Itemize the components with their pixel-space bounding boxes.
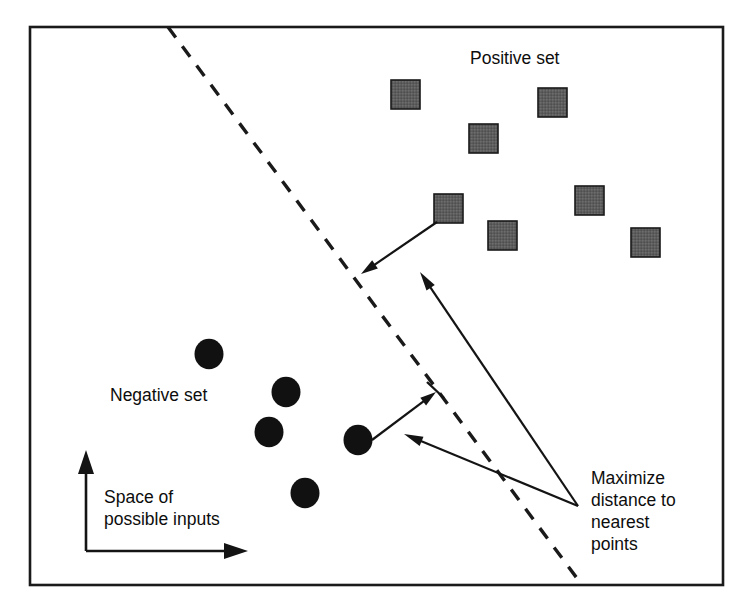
- negative-set-circle: [344, 425, 373, 456]
- maximize-label-line3: nearest: [591, 512, 650, 532]
- negative-set-circle: [291, 478, 320, 509]
- svm-margin-figure: Positive set Negative set Space of possi…: [0, 0, 746, 611]
- maximize-label-line1: Maximize: [591, 468, 665, 488]
- negative-set-label: Negative set: [110, 385, 207, 405]
- negative-set-circle: [255, 417, 284, 448]
- space-of-inputs-label-line1: Space of: [104, 487, 173, 507]
- positive-set-square: [488, 221, 517, 250]
- maximize-label-line4: points: [591, 534, 638, 554]
- diagram-canvas: Positive set Negative set Space of possi…: [0, 0, 746, 611]
- space-of-inputs-label-line2: possible inputs: [104, 509, 220, 529]
- positive-set-label: Positive set: [470, 48, 560, 68]
- positive-set-square: [434, 194, 463, 223]
- maximize-label-line2: distance to: [591, 490, 676, 510]
- positive-set-square: [631, 228, 660, 257]
- positive-set-square: [575, 186, 604, 215]
- positive-set-square: [469, 124, 498, 153]
- negative-set-circle: [272, 377, 301, 408]
- negative-set-circle: [195, 339, 224, 370]
- positive-set-square: [391, 80, 420, 109]
- positive-set-square: [538, 88, 567, 117]
